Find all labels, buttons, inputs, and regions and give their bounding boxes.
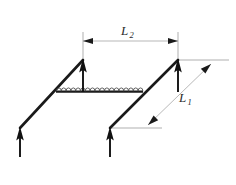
dimension-l2-group: L 2 [83, 23, 178, 58]
dimension-l2-label: L [120, 23, 128, 38]
right-diagonal-member [110, 60, 178, 128]
dimension-l2-arrowhead-left [83, 38, 93, 44]
frame-diagram-svg: L 2 L 1 [0, 0, 236, 185]
dimension-l1-label: L [178, 90, 186, 105]
left-diagonal-member [20, 60, 83, 128]
figure-container: L 2 L 1 [0, 0, 236, 185]
coil-element-group [56, 88, 143, 92]
force-arrow-bottom-left [16, 127, 24, 158]
dimension-l2-arrowhead-right [168, 38, 178, 44]
dimension-l2-label-subscript: 2 [130, 30, 135, 40]
dimension-l1-label-subscript: 1 [188, 97, 192, 107]
force-arrow-bottom-middle [106, 127, 114, 158]
force-arrows-group [16, 58, 182, 157]
